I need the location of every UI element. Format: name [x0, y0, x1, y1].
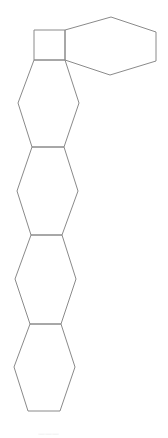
hexagon-ring-right	[65, 17, 156, 75]
square-ring	[34, 30, 65, 60]
hexagon-ring-1	[18, 60, 79, 147]
hexagon-ring-3	[15, 235, 76, 324]
hexagon-ring-2	[17, 147, 78, 235]
molecule-diagram	[0, 0, 168, 438]
diagram-caption: ———	[38, 430, 59, 438]
hexagon-ring-4	[14, 324, 75, 411]
